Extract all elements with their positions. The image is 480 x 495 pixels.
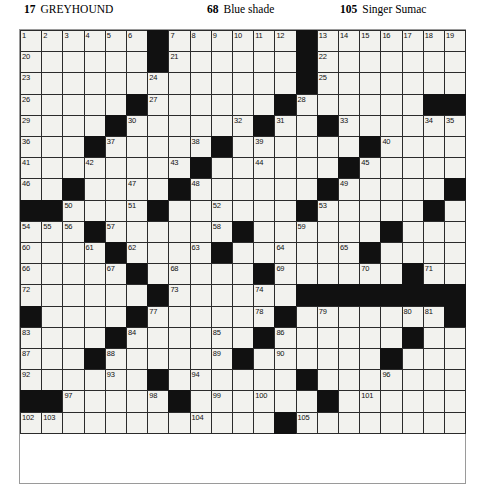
grid-cell[interactable] [317,94,339,116]
grid-cell[interactable] [147,263,169,285]
grid-cell[interactable] [126,369,148,391]
grid-cell[interactable] [253,200,275,222]
grid-cell[interactable] [147,327,169,349]
grid-cell[interactable]: 3 [62,30,84,52]
grid-cell[interactable] [168,221,190,243]
grid-cell[interactable]: 41 [20,157,42,179]
grid-cell[interactable] [274,136,296,158]
grid-cell[interactable]: 65 [338,242,360,264]
grid-cell[interactable]: 28 [296,94,318,116]
grid-cell[interactable]: 74 [253,284,275,306]
grid-cell[interactable]: 85 [211,327,233,349]
grid-cell[interactable]: 68 [168,263,190,285]
grid-cell[interactable]: 34 [423,115,445,137]
grid-cell[interactable] [211,94,233,116]
grid-cell[interactable] [232,136,254,158]
grid-cell[interactable] [359,72,381,94]
grid-cell[interactable] [359,200,381,222]
grid-cell[interactable] [62,369,84,391]
grid-cell[interactable] [147,136,169,158]
grid-cell[interactable] [423,348,445,370]
grid-cell[interactable]: 39 [253,136,275,158]
grid-cell[interactable] [126,72,148,94]
grid-cell[interactable] [380,157,402,179]
grid-cell[interactable] [84,51,106,73]
grid-cell[interactable] [359,178,381,200]
grid-cell[interactable] [338,94,360,116]
grid-cell[interactable] [190,94,212,116]
grid-cell[interactable] [338,412,360,434]
grid-cell[interactable]: 11 [253,30,275,52]
grid-cell[interactable] [253,221,275,243]
grid-cell[interactable]: 21 [168,51,190,73]
grid-cell[interactable]: 101 [359,390,381,412]
grid-cell[interactable] [317,221,339,243]
grid-cell[interactable] [380,51,402,73]
grid-cell[interactable]: 69 [274,263,296,285]
grid-cell[interactable]: 16 [380,30,402,52]
grid-cell[interactable]: 46 [20,178,42,200]
grid-cell[interactable] [105,72,127,94]
grid-cell[interactable] [105,390,127,412]
grid-cell[interactable] [296,136,318,158]
grid-cell[interactable] [402,115,424,137]
grid-cell[interactable] [62,72,84,94]
grid-cell[interactable]: 55 [41,221,63,243]
grid-cell[interactable] [62,51,84,73]
grid-cell[interactable] [232,72,254,94]
grid-cell[interactable] [423,72,445,94]
grid-cell[interactable]: 102 [20,412,42,434]
grid-cell[interactable] [105,412,127,434]
grid-cell[interactable] [444,327,466,349]
grid-cell[interactable] [41,51,63,73]
grid-cell[interactable]: 64 [274,242,296,264]
grid-cell[interactable] [253,412,275,434]
grid-cell[interactable] [147,115,169,137]
grid-cell[interactable] [444,348,466,370]
grid-cell[interactable] [232,200,254,222]
grid-cell[interactable] [168,242,190,264]
grid-cell[interactable] [190,327,212,349]
grid-cell[interactable] [402,94,424,116]
grid-cell[interactable] [402,348,424,370]
grid-cell[interactable] [359,327,381,349]
grid-cell[interactable] [41,115,63,137]
grid-cell[interactable] [168,72,190,94]
grid-cell[interactable]: 105 [296,412,318,434]
grid-cell[interactable]: 86 [274,327,296,349]
grid-cell[interactable] [380,306,402,328]
grid-cell[interactable] [444,157,466,179]
grid-cell[interactable] [232,263,254,285]
grid-cell[interactable] [317,327,339,349]
grid-cell[interactable]: 37 [105,136,127,158]
grid-cell[interactable] [317,369,339,391]
grid-cell[interactable] [190,221,212,243]
grid-cell[interactable] [444,51,466,73]
grid-cell[interactable] [232,412,254,434]
grid-cell[interactable] [444,200,466,222]
grid-cell[interactable] [41,263,63,285]
grid-cell[interactable] [380,94,402,116]
grid-cell[interactable] [338,327,360,349]
grid-cell[interactable] [211,263,233,285]
grid-cell[interactable] [147,242,169,264]
grid-cell[interactable]: 1 [20,30,42,52]
grid-cell[interactable] [444,221,466,243]
grid-cell[interactable] [62,348,84,370]
grid-cell[interactable] [147,157,169,179]
grid-cell[interactable]: 100 [253,390,275,412]
grid-cell[interactable] [338,369,360,391]
grid-cell[interactable] [105,157,127,179]
grid-cell[interactable]: 73 [168,284,190,306]
grid-cell[interactable] [62,157,84,179]
grid-cell[interactable]: 72 [20,284,42,306]
grid-cell[interactable] [84,200,106,222]
grid-cell[interactable] [126,221,148,243]
grid-cell[interactable] [380,327,402,349]
grid-cell[interactable] [402,178,424,200]
grid-cell[interactable] [190,348,212,370]
grid-cell[interactable]: 30 [126,115,148,137]
grid-cell[interactable] [338,200,360,222]
grid-cell[interactable] [338,136,360,158]
grid-cell[interactable] [211,115,233,137]
